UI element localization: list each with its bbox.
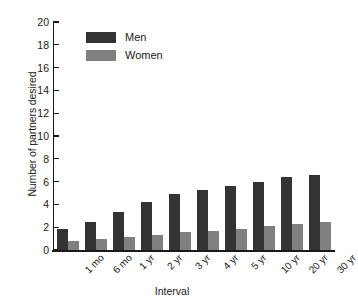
- y-tick-label: 14: [27, 85, 49, 96]
- bar-men: [309, 175, 320, 250]
- legend-label-men: Men: [125, 32, 146, 43]
- bar-men: [57, 229, 68, 250]
- y-tick-label: 0: [27, 245, 49, 256]
- bar-group: [194, 22, 222, 250]
- y-axis-tick-labels: 02468101214161820: [27, 0, 49, 302]
- bar-women: [208, 231, 219, 250]
- y-tick-label: 12: [27, 108, 49, 119]
- bar-group: [54, 22, 82, 250]
- y-tick-label: 10: [27, 131, 49, 142]
- bar-men: [169, 194, 180, 250]
- legend-item-men: Men: [86, 30, 163, 45]
- x-tick-label: 3 yr: [193, 252, 213, 272]
- bar-men: [225, 186, 236, 250]
- bar-women: [236, 229, 247, 250]
- bar-women: [124, 237, 135, 250]
- bar-group: [306, 22, 334, 250]
- bar-women: [152, 235, 163, 250]
- bar-group: [222, 22, 250, 250]
- bar-women: [264, 226, 275, 250]
- bar-group: [250, 22, 278, 250]
- x-tick-label: 1 yr: [137, 252, 157, 272]
- x-tick-label: 20 yr: [307, 252, 331, 276]
- x-tick-label: 2 yr: [165, 252, 185, 272]
- y-tick-label: 16: [27, 62, 49, 73]
- bar-men: [85, 222, 96, 251]
- chart-legend: Men Women: [86, 30, 163, 66]
- x-tick-label: 4 yr: [221, 252, 241, 272]
- bar-men: [281, 177, 292, 250]
- legend-swatch-women-icon: [86, 50, 116, 61]
- x-tick-label: 30 yr: [335, 252, 358, 276]
- bar-women: [292, 224, 303, 250]
- bar-group: [166, 22, 194, 250]
- bar-men: [197, 190, 208, 250]
- bar-women: [180, 232, 191, 250]
- y-tick-label: 8: [27, 154, 49, 165]
- legend-label-women: Women: [125, 50, 163, 61]
- bar-women: [320, 222, 331, 250]
- y-tick-label: 18: [27, 40, 49, 51]
- bar-women: [68, 241, 79, 250]
- bar-men: [141, 202, 152, 250]
- x-tick-label: 6 mo: [111, 252, 135, 276]
- x-tick-label: 5 yr: [249, 252, 269, 272]
- legend-item-women: Women: [86, 48, 163, 63]
- bar-men: [253, 182, 264, 250]
- bar-group: [278, 22, 306, 250]
- bar-women: [96, 239, 107, 250]
- x-tick-label: 1 mo: [83, 252, 107, 276]
- y-tick-label: 6: [27, 176, 49, 187]
- x-axis-title: Interval: [0, 285, 344, 297]
- y-tick-label: 4: [27, 199, 49, 210]
- legend-swatch-men-icon: [86, 32, 116, 43]
- x-tick-label: 10 yr: [279, 252, 303, 276]
- y-tick-label: 2: [27, 222, 49, 233]
- y-tick-label: 20: [27, 17, 49, 28]
- bar-men: [113, 212, 124, 250]
- x-axis-tick-labels: 1 mo6 mo1 yr2 yr3 yr4 yr5 yr10 yr20 yr30…: [54, 252, 335, 284]
